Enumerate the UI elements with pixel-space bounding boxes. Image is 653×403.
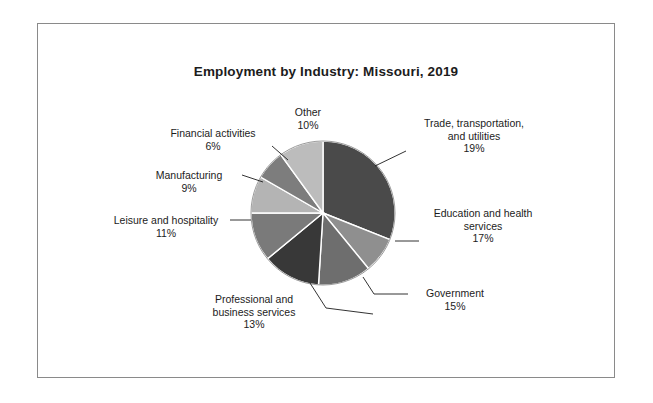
pie-chart: Trade, transportation, and utilities 19%… bbox=[38, 24, 616, 379]
pie-label-education-line1: Education and health bbox=[421, 207, 545, 220]
pie-label-financial-line1: Financial activities bbox=[154, 127, 272, 140]
pie-label-leisure-percent: 11% bbox=[104, 227, 228, 240]
pie-label-professional-line2: business services bbox=[193, 306, 315, 319]
pie-label-government-line1: Government bbox=[410, 287, 500, 300]
pie-label-manufacturing: Manufacturing 9% bbox=[136, 169, 242, 194]
pie-label-professional-percent: 13% bbox=[193, 318, 315, 331]
pie-label-other-percent: 10% bbox=[277, 119, 339, 132]
pie-label-manufacturing-percent: 9% bbox=[136, 182, 242, 195]
pie-label-trade-transportation-and-utilities: Trade, transportation, and utilities 19% bbox=[408, 117, 540, 155]
pie-label-leisure-and-hospitality: Leisure and hospitality 11% bbox=[104, 214, 228, 239]
pie-label-government-percent: 15% bbox=[410, 300, 500, 313]
pie-label-leisure-line1: Leisure and hospitality bbox=[104, 214, 228, 227]
pie-label-trade-percent: 19% bbox=[408, 142, 540, 155]
leader-line-trade bbox=[375, 151, 406, 166]
leader-line-government bbox=[363, 277, 408, 294]
pie-label-professional-line1: Professional and bbox=[193, 293, 315, 306]
pie-svg bbox=[38, 24, 616, 379]
pie-label-trade-line1: Trade, transportation, bbox=[408, 117, 540, 130]
pie-label-education-and-health-services: Education and health services 17% bbox=[421, 207, 545, 245]
pie-label-other: Other 10% bbox=[277, 106, 339, 131]
figure-frame: Employment by Industry: Missouri, 2019 bbox=[37, 23, 615, 378]
pie-label-trade-line2: and utilities bbox=[408, 130, 540, 143]
pie-label-manufacturing-line1: Manufacturing bbox=[136, 169, 242, 182]
pie-slices bbox=[251, 141, 395, 285]
pie-label-education-line2: services bbox=[421, 220, 545, 233]
pie-label-financial-activities: Financial activities 6% bbox=[154, 127, 272, 152]
pie-label-other-line1: Other bbox=[277, 106, 339, 119]
pie-label-education-percent: 17% bbox=[421, 232, 545, 245]
leader-line-professional bbox=[310, 283, 373, 314]
pie-label-professional-and-business-services: Professional and business services 13% bbox=[193, 293, 315, 331]
pie-label-government: Government 15% bbox=[410, 287, 500, 312]
pie-label-financial-percent: 6% bbox=[154, 140, 272, 153]
